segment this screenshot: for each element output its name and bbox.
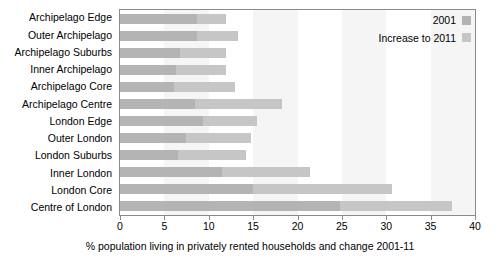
legend: 2001 Increase to 2011: [379, 15, 471, 43]
bar-segment-increase-to-2011: [340, 201, 452, 211]
bar-row: [120, 198, 475, 215]
bar-segment-2001: [120, 167, 222, 177]
y-axis-label: Outer London: [0, 130, 116, 147]
bar-segment-increase-to-2011: [176, 65, 226, 75]
bar-segment-2001: [120, 116, 203, 126]
bar-segment-increase-to-2011: [180, 48, 226, 58]
bar-segment-2001: [120, 201, 340, 211]
stacked-bar: [120, 99, 282, 109]
stacked-bar: [120, 201, 452, 211]
bar-segment-increase-to-2011: [174, 82, 235, 92]
bar-segment-2001: [120, 48, 180, 58]
plot-area: 2001 Increase to 2011: [119, 9, 476, 216]
stacked-bar: [120, 82, 235, 92]
bar-segment-2001: [120, 65, 176, 75]
legend-label-2001: 2001: [433, 15, 456, 26]
bar-segment-2001: [120, 150, 178, 160]
stacked-bar: [120, 184, 392, 194]
bar-row: [120, 181, 475, 198]
bar-segment-increase-to-2011: [178, 150, 246, 160]
bar-segment-2001: [120, 14, 197, 24]
stacked-bar: [120, 65, 226, 75]
stacked-bar: [120, 14, 227, 24]
legend-label-increase-to-2011: Increase to 2011: [379, 33, 456, 44]
y-axis-label: Centre of London: [0, 199, 116, 216]
bar-segment-2001: [120, 31, 197, 41]
x-axis-tick-label: 0: [117, 221, 123, 232]
legend-item-2001: 2001: [433, 15, 471, 26]
y-axis-label: London Edge: [0, 113, 116, 130]
bar-segment-increase-to-2011: [197, 14, 226, 24]
bar-segment-2001: [120, 82, 174, 92]
x-axis-tick-label: 25: [336, 221, 348, 232]
bar-row: [120, 61, 475, 78]
bar-segment-increase-to-2011: [253, 184, 391, 194]
bar-row: [120, 112, 475, 129]
bar-segment-2001: [120, 133, 186, 143]
bar-segment-increase-to-2011: [195, 99, 283, 109]
stacked-bar: [120, 48, 227, 58]
x-axis-tick-label: 35: [425, 221, 437, 232]
legend-swatch-2001: [462, 16, 471, 25]
bar-row: [120, 164, 475, 181]
bar-segment-increase-to-2011: [197, 31, 238, 41]
x-axis-tick-label: 30: [380, 221, 392, 232]
x-axis-tick-label: 15: [247, 221, 259, 232]
bar-segment-2001: [120, 184, 253, 194]
y-axis-category-labels: Archipelago EdgeOuter ArchipelagoArchipe…: [0, 9, 116, 216]
bar-row: [120, 147, 475, 164]
stacked-bar: [120, 133, 251, 143]
bar-row: [120, 78, 475, 95]
stacked-bar: [120, 116, 257, 126]
x-axis-tick-label: 10: [203, 221, 215, 232]
y-axis-label: Archipelago Centre: [0, 95, 116, 112]
stacked-bar: [120, 167, 310, 177]
bar-segment-increase-to-2011: [186, 133, 252, 143]
x-axis: 0510152025303540: [119, 216, 476, 238]
bar-row: [120, 130, 475, 147]
y-axis-label: London Suburbs: [0, 147, 116, 164]
stacked-bar: [120, 31, 238, 41]
bar-chart: Archipelago EdgeOuter ArchipelagoArchipe…: [0, 0, 500, 271]
x-axis-tick-label: 5: [161, 221, 167, 232]
bar-segment-2001: [120, 99, 195, 109]
legend-item-increase-to-2011: Increase to 2011: [379, 33, 471, 44]
y-axis-label: Inner Archipelago: [0, 61, 116, 78]
y-axis-label: Archipelago Edge: [0, 9, 116, 26]
bar-row: [120, 44, 475, 61]
y-axis-label: Outer Archipelago: [0, 26, 116, 43]
stacked-bar: [120, 150, 246, 160]
bar-row: [120, 95, 475, 112]
x-axis-tick-label: 20: [292, 221, 304, 232]
legend-swatch-increase-to-2011: [462, 33, 471, 42]
x-axis-title: % population living in privately rented …: [0, 241, 500, 252]
y-axis-label: Archipelago Suburbs: [0, 44, 116, 61]
x-axis-tick-label: 40: [469, 221, 481, 232]
y-axis-label: Inner London: [0, 164, 116, 181]
y-axis-label: Archipelago Core: [0, 78, 116, 95]
bar-segment-increase-to-2011: [222, 167, 310, 177]
bar-segment-increase-to-2011: [203, 116, 257, 126]
y-axis-label: London Core: [0, 182, 116, 199]
